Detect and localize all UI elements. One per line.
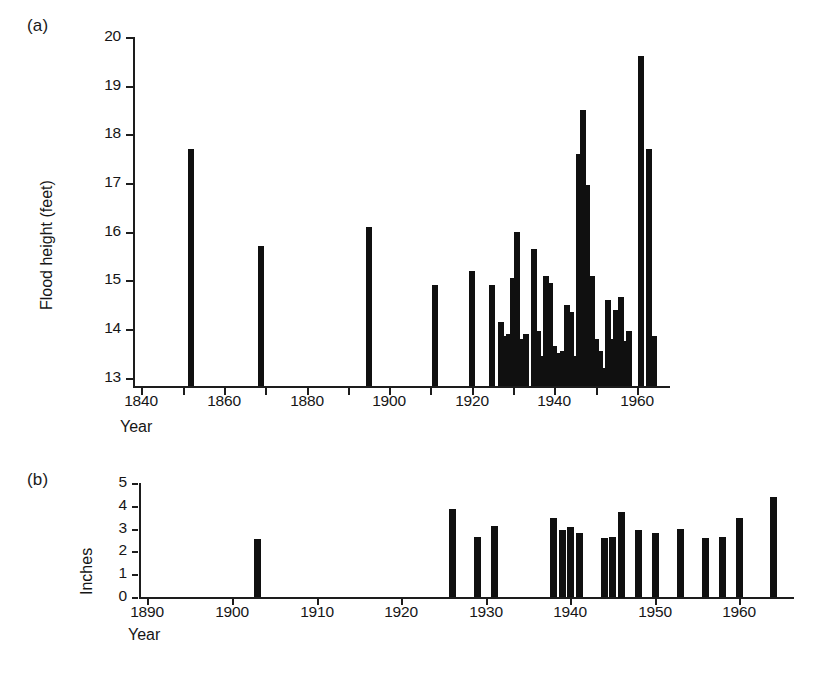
bar bbox=[770, 497, 777, 597]
bar bbox=[449, 509, 456, 597]
panel-a-x-tick-label: 1920 bbox=[442, 392, 502, 410]
panel-b-x-tick-label: 1960 bbox=[709, 603, 769, 621]
panel-a-x-tick-label: 1940 bbox=[524, 392, 584, 410]
panel-b-y-tick bbox=[132, 574, 138, 576]
panel-b-y-axis bbox=[139, 483, 141, 599]
bar bbox=[719, 537, 726, 597]
panel-a-y-tick-label: 19 bbox=[79, 76, 121, 94]
panel-a-plot: 1840186018801900192019401960131415161718… bbox=[0, 0, 815, 450]
bar bbox=[702, 538, 709, 597]
panel-b-y-tick-label: 2 bbox=[85, 541, 127, 559]
panel-a-y-tick bbox=[126, 329, 133, 331]
panel-a-x-axis bbox=[133, 386, 670, 388]
panel-b: (b) Inches Year 189019001910192019301940… bbox=[0, 450, 815, 673]
bar bbox=[254, 539, 261, 597]
panel-a-x-tick bbox=[265, 388, 267, 395]
bar bbox=[489, 285, 495, 386]
bar bbox=[576, 533, 583, 597]
panel-b-x-axis bbox=[139, 597, 794, 599]
panel-a-x-tick bbox=[513, 388, 515, 395]
panel-a-y-tick-label: 15 bbox=[79, 270, 121, 288]
panel-a-y-axis bbox=[133, 37, 135, 388]
bar bbox=[638, 56, 644, 386]
bar bbox=[626, 331, 632, 386]
bar bbox=[618, 512, 625, 598]
bar bbox=[652, 533, 659, 597]
panel-a-y-tick bbox=[126, 280, 133, 282]
panel-a-y-tick bbox=[126, 37, 133, 39]
bar bbox=[559, 530, 566, 597]
panel-a-y-tick bbox=[126, 232, 133, 234]
bar bbox=[469, 271, 475, 386]
panel-b-x-tick-label: 1950 bbox=[625, 603, 685, 621]
panel-b-y-tick bbox=[132, 551, 138, 553]
panel-a-y-tick-label: 13 bbox=[79, 368, 121, 386]
panel-a-y-tick bbox=[126, 86, 133, 88]
panel-a-x-tick-label: 1880 bbox=[277, 392, 337, 410]
panel-a-x-tick bbox=[183, 388, 185, 395]
bar bbox=[366, 227, 372, 386]
panel-a-x-tick-label: 1860 bbox=[194, 392, 254, 410]
panel-a-x-tick-label: 1900 bbox=[359, 392, 419, 410]
bar bbox=[258, 246, 264, 386]
panel-a-x-tick bbox=[348, 388, 350, 395]
panel-a-x-tick bbox=[430, 388, 432, 395]
panel-b-x-tick-label: 1910 bbox=[287, 603, 347, 621]
panel-b-y-tick-label: 5 bbox=[85, 473, 127, 491]
panel-b-y-tick-label: 4 bbox=[85, 496, 127, 514]
panel-a-x-tick-label: 1840 bbox=[111, 392, 171, 410]
panel-a-y-tick-label: 18 bbox=[79, 124, 121, 142]
panel-b-plot: 18901900191019201930194019501960012345 bbox=[0, 450, 815, 673]
bar bbox=[736, 518, 743, 597]
bar bbox=[432, 285, 438, 386]
panel-b-x-tick-label: 1930 bbox=[456, 603, 516, 621]
panel-b-x-tick-label: 1920 bbox=[371, 603, 431, 621]
panel-a-x-tick-label: 1960 bbox=[607, 392, 667, 410]
bar bbox=[491, 526, 498, 597]
panel-b-x-tick-label: 1890 bbox=[117, 603, 177, 621]
panel-a-x-tick bbox=[596, 388, 598, 395]
bar bbox=[474, 537, 481, 597]
panel-b-y-tick-label: 0 bbox=[85, 587, 127, 605]
bar bbox=[523, 334, 529, 386]
panel-a-y-tick-label: 14 bbox=[79, 319, 121, 337]
panel-b-y-tick-label: 3 bbox=[85, 519, 127, 537]
panel-b-x-tick-label: 1940 bbox=[540, 603, 600, 621]
bar bbox=[601, 538, 608, 597]
panel-b-y-tick bbox=[132, 506, 138, 508]
bar bbox=[609, 537, 616, 597]
panel-a-y-tick-label: 20 bbox=[79, 27, 121, 45]
bar bbox=[677, 529, 684, 597]
bar bbox=[567, 527, 574, 597]
panel-a: (a) Flood height (feet) Year 18401860188… bbox=[0, 0, 815, 450]
panel-a-y-tick bbox=[126, 134, 133, 136]
panel-b-y-tick bbox=[132, 483, 138, 485]
panel-a-y-tick bbox=[126, 183, 133, 185]
bar bbox=[550, 518, 557, 597]
panel-a-y-tick-label: 17 bbox=[79, 173, 121, 191]
panel-a-y-tick bbox=[126, 378, 133, 380]
panel-b-y-tick-label: 1 bbox=[85, 564, 127, 582]
bar bbox=[651, 336, 657, 386]
bar bbox=[635, 530, 642, 597]
figure-root: (a) Flood height (feet) Year 18401860188… bbox=[0, 0, 815, 673]
panel-b-y-tick bbox=[132, 529, 138, 531]
panel-b-y-tick bbox=[132, 597, 138, 599]
panel-a-y-tick-label: 16 bbox=[79, 222, 121, 240]
panel-b-x-tick-label: 1900 bbox=[202, 603, 262, 621]
bar bbox=[188, 149, 194, 386]
